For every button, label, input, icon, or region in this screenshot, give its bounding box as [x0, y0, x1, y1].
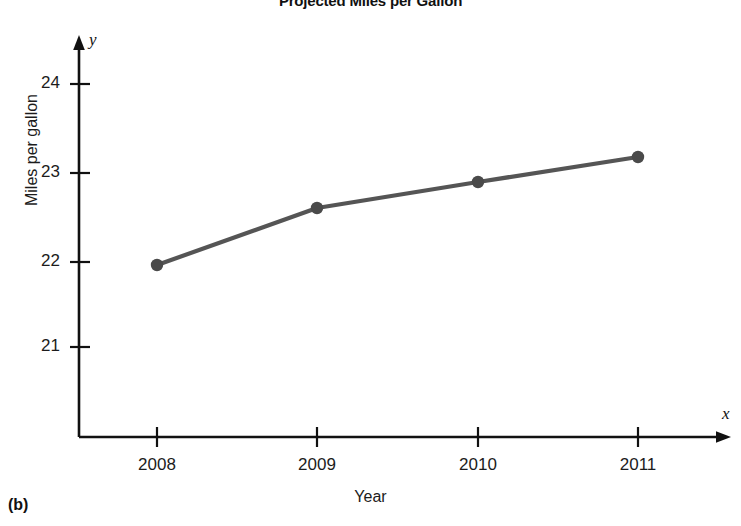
x-tick-label-2009: 2009 — [282, 455, 352, 475]
x-tick-label-2010: 2010 — [443, 455, 513, 475]
y-axis-arrowhead — [73, 35, 85, 50]
data-point-2009 — [311, 202, 323, 214]
y-tick-label-22: 22 — [14, 251, 60, 271]
x-tick-label-2011: 2011 — [603, 455, 673, 475]
x-axis-title: Year — [0, 488, 741, 506]
data-point-2011 — [632, 151, 644, 163]
y-axis-title: Miles per gallon — [5, 0, 23, 150]
x-tick-label-2008: 2008 — [122, 455, 192, 475]
line-chart-plot — [0, 0, 741, 526]
data-point-2008 — [151, 259, 163, 271]
data-line — [157, 157, 638, 265]
figure-panel: Projected Miles per Gallon 24 23 22 21 2… — [0, 0, 741, 526]
panel-label: (b) — [8, 496, 28, 514]
data-point-2010 — [472, 176, 484, 188]
y-axis-title-text: Miles per gallon — [23, 60, 41, 240]
y-axis-variable-label: y — [89, 30, 97, 50]
x-axis-variable-label: x — [722, 404, 730, 424]
x-axis-arrowhead — [716, 431, 731, 443]
y-tick-label-21: 21 — [14, 336, 60, 356]
